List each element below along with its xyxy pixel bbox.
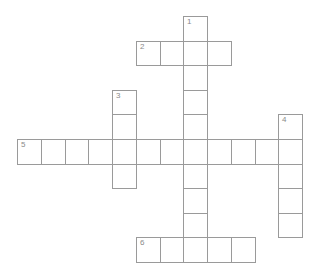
crossword-cell[interactable] <box>183 237 208 263</box>
crossword-cell[interactable] <box>112 164 137 189</box>
crossword-cell[interactable] <box>160 237 184 263</box>
crossword-cell[interactable] <box>207 139 232 165</box>
crossword-cell[interactable]: 5 <box>17 139 42 165</box>
crossword-cell[interactable] <box>278 188 303 214</box>
crossword-cell[interactable]: 4 <box>278 114 303 140</box>
clue-number: 1 <box>187 18 191 26</box>
crossword-cell[interactable] <box>278 139 303 165</box>
crossword-cell[interactable] <box>160 41 184 66</box>
crossword-cell[interactable] <box>207 41 232 66</box>
crossword-cell[interactable] <box>255 139 279 165</box>
crossword-cell[interactable] <box>183 90 208 115</box>
crossword-cell[interactable] <box>278 164 303 189</box>
crossword-cell[interactable] <box>183 41 208 66</box>
clue-number: 2 <box>140 43 144 51</box>
crossword-grid: 123456 <box>0 0 320 271</box>
crossword-cell[interactable] <box>160 139 184 165</box>
crossword-cell[interactable] <box>183 139 208 165</box>
crossword-cell[interactable] <box>65 139 89 165</box>
crossword-cell[interactable] <box>183 65 208 91</box>
crossword-cell[interactable] <box>207 237 232 263</box>
crossword-cell[interactable] <box>88 139 113 165</box>
crossword-cell[interactable]: 3 <box>112 90 137 115</box>
clue-number: 6 <box>140 239 144 247</box>
clue-number: 5 <box>21 141 25 149</box>
crossword-cell[interactable] <box>183 164 208 189</box>
crossword-cell[interactable] <box>231 237 256 263</box>
crossword-cell[interactable] <box>231 139 256 165</box>
clue-number: 4 <box>282 116 286 124</box>
crossword-cell[interactable]: 1 <box>183 16 208 42</box>
crossword-cell[interactable] <box>278 213 303 238</box>
crossword-cell[interactable] <box>41 139 66 165</box>
crossword-cell[interactable]: 6 <box>136 237 161 263</box>
crossword-cell[interactable] <box>136 139 161 165</box>
crossword-cell[interactable] <box>183 188 208 214</box>
clue-number: 3 <box>116 92 120 100</box>
crossword-cell[interactable]: 2 <box>136 41 161 66</box>
crossword-cell[interactable] <box>112 114 137 140</box>
crossword-cell[interactable] <box>183 213 208 238</box>
crossword-cell[interactable] <box>183 114 208 140</box>
crossword-cell[interactable] <box>112 139 137 165</box>
